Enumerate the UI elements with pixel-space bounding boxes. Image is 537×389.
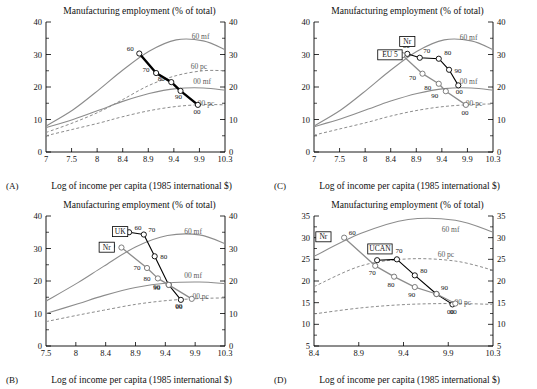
x-tick-label: 8 <box>74 348 78 358</box>
data-point <box>137 51 142 56</box>
panel-id: (D) <box>274 375 287 385</box>
data-point-label: 80 <box>444 49 452 57</box>
y-tick-label: 10 <box>302 115 311 125</box>
data-point <box>436 81 441 86</box>
data-point-label: 90 <box>441 284 449 292</box>
curve-label: 00 mf <box>460 77 478 86</box>
curve-label: 60 pc <box>191 62 208 71</box>
data-point-label: 90 <box>431 92 439 100</box>
x-tick-label: 7.5 <box>66 154 77 164</box>
data-point <box>446 67 451 72</box>
x-tick-label: 9.9 <box>194 154 205 164</box>
x-tick-label: 10.3 <box>486 154 501 164</box>
y-tick-label: 40 <box>302 17 311 27</box>
data-series-line <box>139 54 198 105</box>
data-point-label: 80 <box>424 84 432 92</box>
x-tick-label: 8.9 <box>130 348 141 358</box>
curve-label: 60 mf <box>192 32 210 41</box>
svg-text:EU 5: EU 5 <box>382 50 398 59</box>
data-point <box>166 282 171 287</box>
data-point <box>391 274 396 279</box>
x-tick-label: 9.9 <box>462 154 473 164</box>
y-tick-label: 10 <box>229 115 238 125</box>
svg-text:UK: UK <box>115 227 126 236</box>
svg-text:Nr: Nr <box>319 232 327 241</box>
y-tick-label: 25 <box>302 254 311 264</box>
y-tick-label: 30 <box>229 244 238 254</box>
data-point <box>119 245 124 250</box>
axis-frame <box>46 22 225 152</box>
x-tick-label: 8.9 <box>353 348 364 358</box>
x-tick-label: 8.9 <box>143 154 154 164</box>
y-tick-label: 40 <box>497 17 506 27</box>
curve-label: 60 mf <box>184 227 202 236</box>
data-point-label: 00 <box>193 108 201 116</box>
series-label-box: EU 5 <box>378 50 402 60</box>
y-tick-label: 10 <box>34 309 43 319</box>
curve-label: 60 mf <box>460 33 478 42</box>
y-tick-label: 30 <box>302 50 311 60</box>
x-tick-label: 8.4 <box>309 348 320 358</box>
x-tick-label: 7.5 <box>41 348 52 358</box>
reference-curve <box>314 259 493 287</box>
figure-container: Manufacturing employment (% of total)001… <box>0 0 537 389</box>
chart-panel-a: Manufacturing employment (% of total)001… <box>0 0 269 195</box>
y-tick-label: 40 <box>34 17 43 27</box>
x-tick-label: 8.4 <box>100 348 111 358</box>
data-point-label: 70 <box>395 247 403 255</box>
data-point <box>144 265 149 270</box>
y-tick-label: 35 <box>497 211 506 221</box>
series-label-box: UK <box>113 227 128 237</box>
data-point-label: 70 <box>423 47 431 55</box>
x-axis-label: Log of income per capita (1985 internati… <box>51 375 232 386</box>
x-tick-label: 10.3 <box>486 348 501 358</box>
x-axis-label: Log of income per capita (1985 internati… <box>51 181 232 192</box>
y-tick-label: 30 <box>34 244 43 254</box>
panel-id: (B) <box>6 375 18 385</box>
y-tick-label: 20 <box>229 276 238 286</box>
y-tick-label: 40 <box>34 211 43 221</box>
data-point <box>436 56 441 61</box>
y-tick-label: 20 <box>302 82 311 92</box>
data-point-label: 90 <box>455 67 463 75</box>
y-tick-label: 10 <box>302 319 311 329</box>
y-tick-label: 40 <box>229 211 238 221</box>
data-point-label: 80 <box>160 253 168 261</box>
curve-label: 60 mf <box>442 225 460 234</box>
svg-text:Nr: Nr <box>403 37 411 46</box>
y-tick-label: 20 <box>34 82 43 92</box>
data-point-label: 80 <box>143 275 151 283</box>
data-point-label: 60 <box>127 45 135 53</box>
y-tick-label: 30 <box>229 50 238 60</box>
y-tick-label: 20 <box>497 82 506 92</box>
svg-text:Nr: Nr <box>103 243 111 252</box>
y-tick-label: 15 <box>302 298 311 308</box>
series-label-box: Nr <box>316 232 331 242</box>
y-tick-label: 30 <box>302 233 311 243</box>
data-point <box>463 102 468 107</box>
data-point <box>195 102 200 107</box>
data-point-label: 60 <box>135 224 143 232</box>
data-point <box>405 51 410 56</box>
chart-panel-d: Manufacturing employment (% of total)551… <box>268 194 537 389</box>
y-tick-label: 15 <box>497 298 506 308</box>
y-tick-label: 20 <box>497 276 506 286</box>
y-tick-label: 10 <box>497 115 506 125</box>
x-tick-label: 10.3 <box>218 154 233 164</box>
data-point <box>189 296 194 301</box>
x-tick-label: 9.4 <box>160 348 171 358</box>
x-tick-label: 9.4 <box>437 154 448 164</box>
reference-curve <box>314 218 493 256</box>
curve-label: 00 pc <box>192 292 209 301</box>
data-point-label: 00 <box>461 109 469 117</box>
data-point <box>141 232 146 237</box>
data-point <box>373 263 378 268</box>
x-tick-label: 9.9 <box>443 348 454 358</box>
data-point <box>420 71 425 76</box>
data-point-label: 00 <box>450 308 458 316</box>
x-tick-label: 7.5 <box>334 154 345 164</box>
y-tick-label: 30 <box>497 233 506 243</box>
x-tick-label: 9.9 <box>190 348 201 358</box>
data-point-label: 80 <box>158 75 166 83</box>
data-point <box>417 55 422 60</box>
